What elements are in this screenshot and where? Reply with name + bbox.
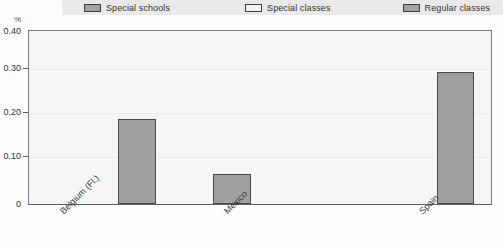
legend-item-special-schools[interactable]: Special schools (84, 3, 170, 13)
bar-belgium-fl-special-schools[interactable] (118, 119, 156, 204)
chart-legend: Special schools Special classes Regular … (62, 0, 503, 15)
legend-label-special-classes: Special classes (267, 3, 331, 13)
legend-item-regular-classes[interactable]: Regular classes (403, 3, 491, 13)
legend-item-special-classes[interactable]: Special classes (245, 3, 331, 13)
legend-label-special-schools: Special schools (106, 3, 170, 13)
y-tick-label-030: 0.30 (3, 63, 21, 73)
y-tick-label-040: 0.40 (3, 26, 21, 36)
legend-label-regular-classes: Regular classes (425, 3, 491, 13)
y-tickmark-020 (23, 112, 28, 113)
legend-swatch-regular-classes-icon (403, 4, 420, 12)
legend-swatch-special-classes-icon (245, 4, 262, 12)
chart-container: Special schools Special classes Regular … (0, 0, 503, 246)
y-tick-label-010: 0.10 (3, 151, 21, 161)
legend-swatch-special-schools-icon (84, 4, 101, 12)
y-tickmark-010 (23, 156, 28, 157)
x-axis: Belgium (Fl.) Mexico Spain (0, 205, 503, 246)
y-tickmark-030 (23, 68, 28, 69)
y-tick-label-020: 0.20 (3, 107, 21, 117)
bar-spain-special-schools[interactable] (437, 72, 474, 204)
